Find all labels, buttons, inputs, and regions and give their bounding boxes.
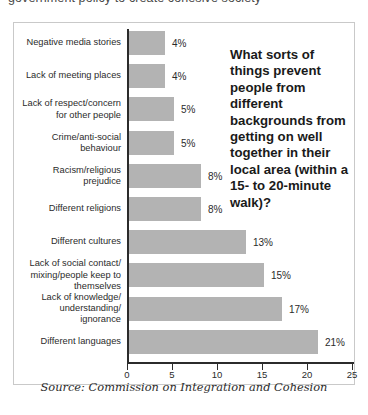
bar	[129, 164, 201, 188]
bar-category-label: Lack of meeting places	[26, 71, 121, 82]
chart-title: What sorts of things prevent people from…	[230, 47, 354, 211]
bar-category-label: Lack of knowledge/ understanding/ ignora…	[41, 292, 121, 326]
bar	[129, 31, 165, 55]
plot-area: Negative media stories4%Lack of meeting …	[14, 23, 354, 384]
bar-category-label: Crime/anti-social behaviour	[52, 131, 121, 153]
bar-category-label: Lack of social contact/ mixing/people ke…	[30, 259, 121, 293]
bar	[129, 230, 246, 254]
bar	[129, 297, 282, 321]
bar	[129, 197, 201, 221]
bar-category-label: Racism/religious prejudice	[53, 165, 121, 187]
bar-value-label: 5%	[181, 104, 195, 115]
bar	[129, 64, 165, 88]
cutoff-body-text-label: government policy to create cohesive soc…	[8, 0, 261, 5]
bar-value-label: 21%	[325, 336, 345, 347]
source-caption: Source: Commission on Integration and Co…	[14, 380, 354, 394]
bar-value-label: 8%	[208, 204, 222, 215]
bar-value-label: 13%	[253, 237, 273, 248]
bar-row: Different languages21%	[14, 330, 354, 354]
x-axis-tick-label: 0	[124, 369, 129, 380]
bar-value-label: 5%	[181, 137, 195, 148]
bar	[129, 263, 264, 287]
x-axis-tick-label: 15	[257, 369, 268, 380]
bar	[129, 131, 174, 155]
bar-row: Lack of social contact/ mixing/people ke…	[14, 263, 354, 287]
x-axis-tick-label: 20	[302, 369, 313, 380]
bar-value-label: 4%	[172, 71, 186, 82]
bar-category-label: Different languages	[41, 336, 121, 347]
bar-value-label: 15%	[271, 270, 291, 281]
bar-row: Different cultures13%	[14, 230, 354, 254]
bar-value-label: 4%	[172, 38, 186, 49]
x-axis-line	[127, 362, 354, 364]
x-axis-tick-label: 25	[347, 369, 358, 380]
bar-category-label: Lack of respect/concern for other people	[22, 98, 121, 120]
bar-category-label: Different cultures	[51, 237, 121, 248]
bar-row: Lack of knowledge/ understanding/ ignora…	[14, 297, 354, 321]
bar	[129, 97, 174, 121]
bar-category-label: Negative media stories	[26, 37, 121, 48]
cutoff-body-text: government policy to create cohesive soc…	[0, 0, 368, 9]
bar-value-label: 17%	[289, 303, 309, 314]
bar-category-label: Different religions	[49, 203, 121, 214]
x-axis-tick-label: 10	[212, 369, 223, 380]
bar	[129, 330, 318, 354]
bar-value-label: 8%	[208, 170, 222, 181]
chart-figure: Negative media stories4%Lack of meeting …	[13, 22, 355, 385]
x-axis-tick-label: 5	[169, 369, 174, 380]
